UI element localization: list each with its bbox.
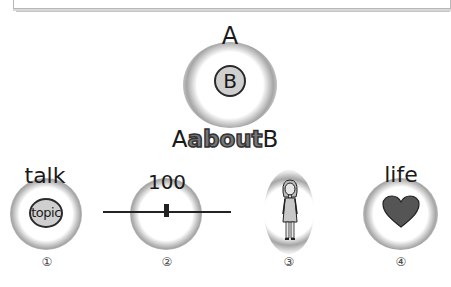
item-2-number: ②: [157, 255, 177, 269]
phrase-prefix: A: [172, 126, 188, 152]
slider-thumb-icon: [164, 204, 169, 217]
label-a-top: A: [215, 22, 245, 50]
item-3-number: ③: [279, 255, 299, 269]
item-1-number: ①: [37, 255, 57, 269]
woman-figure-icon: [279, 178, 301, 242]
phrase-emphasis: about: [187, 126, 262, 152]
heart-icon: [382, 195, 420, 229]
item-2-label: 100: [137, 170, 197, 194]
item-4-label: life: [371, 162, 431, 187]
phrase-a-about-b: AaboutB: [150, 126, 300, 152]
item-1-label: talk: [15, 163, 75, 188]
phrase-suffix: B: [263, 126, 279, 152]
top-frame-box: [13, 0, 451, 9]
topic-circle-icon: topic: [29, 198, 63, 228]
circle-b-icon: B: [214, 65, 246, 97]
item-4-number: ④: [391, 255, 411, 269]
